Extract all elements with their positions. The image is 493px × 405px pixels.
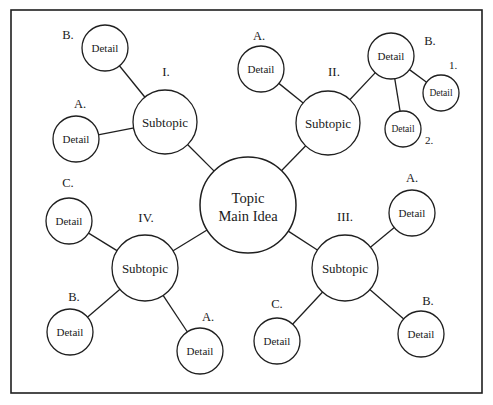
label-detail-3-c: Detail [264, 335, 291, 347]
marker-detail-2-b-1: 1. [449, 59, 458, 71]
node-subtopic-4[interactable]: Subtopic [112, 235, 178, 301]
marker-detail-2-a: A. [253, 29, 265, 43]
edge-detail-2-b-to-detail-2-b-2 [395, 78, 401, 112]
label-subtopic-4: Subtopic [122, 261, 168, 276]
edge-center-to-subtopic-3 [288, 231, 318, 250]
node-detail-3-a[interactable]: Detail [389, 190, 435, 236]
marker-subtopic-1: I. [162, 64, 170, 79]
marker-detail-3-a: A. [406, 171, 418, 185]
edge-detail-2-b-to-detail-2-b-1 [409, 69, 427, 82]
edge-subtopic-1-to-detail-1-a [98, 128, 134, 135]
marker-detail-1-b: B. [62, 28, 73, 42]
marker-detail-4-b: B. [68, 290, 79, 304]
label-detail-3-a: Detail [399, 207, 426, 219]
label-detail-2-b: Detail [378, 50, 405, 62]
center-label-line1: Topic [232, 190, 265, 206]
edge-center-to-subtopic-2 [281, 146, 306, 171]
marker-subtopic-3: III. [337, 209, 353, 224]
label-detail-3-b: Detail [408, 328, 435, 340]
label-detail-2-b-1: Detail [429, 88, 453, 98]
label-subtopic-2: Subtopic [305, 116, 351, 131]
node-detail-2-b[interactable]: Detail [368, 33, 414, 79]
node-detail-1-a[interactable]: Detail [53, 116, 99, 162]
label-detail-1-a: Detail [63, 133, 90, 145]
node-detail-2-b-2[interactable]: Detail [385, 111, 421, 147]
center-label-line2: Main Idea [218, 208, 278, 224]
node-detail-3-c[interactable]: Detail [254, 318, 300, 364]
node-layer: TopicMain IdeaSubtopicDetailDetailSubtop… [46, 25, 459, 374]
node-detail-4-c[interactable]: Detail [46, 198, 92, 244]
marker-detail-3-b: B. [422, 294, 433, 308]
node-detail-3-b[interactable]: Detail [398, 311, 444, 357]
node-subtopic-2[interactable]: Subtopic [296, 91, 360, 155]
marker-detail-4-c: C. [62, 176, 73, 190]
label-detail-2-b-2: Detail [391, 124, 415, 134]
node-detail-2-b-1[interactable]: Detail [423, 75, 459, 111]
label-detail-4-b: Detail [57, 326, 84, 338]
edge-subtopic-3-to-detail-3-b [370, 289, 404, 319]
edge-subtopic-4-to-detail-4-c [88, 233, 117, 251]
marker-detail-2-b: B. [424, 34, 435, 48]
node-subtopic-1[interactable]: Subtopic [133, 90, 197, 154]
concept-map-svg: TopicMain IdeaSubtopicDetailDetailSubtop… [0, 0, 493, 405]
label-subtopic-3: Subtopic [322, 261, 368, 276]
edge-subtopic-2-to-detail-2-a [279, 83, 304, 103]
edge-subtopic-4-to-detail-4-b [87, 289, 120, 317]
marker-detail-4-a: A. [202, 310, 214, 324]
node-subtopic-3[interactable]: Subtopic [312, 235, 378, 301]
node-detail-4-a[interactable]: Detail [177, 328, 223, 374]
label-detail-1-b: Detail [92, 42, 119, 54]
edge-center-to-subtopic-1 [187, 144, 214, 171]
diagram-canvas: TopicMain IdeaSubtopicDetailDetailSubtop… [0, 0, 493, 405]
edge-subtopic-3-to-detail-3-c [292, 292, 323, 325]
edge-center-to-subtopic-4 [173, 230, 208, 251]
label-detail-4-a: Detail [187, 345, 214, 357]
edge-subtopic-4-to-detail-4-a [163, 295, 188, 332]
edge-subtopic-2-to-detail-2-b [350, 72, 376, 100]
label-subtopic-1: Subtopic [142, 115, 188, 130]
marker-detail-2-b-2: 2. [425, 134, 434, 146]
edge-subtopic-3-to-detail-3-a [370, 227, 394, 247]
node-detail-4-b[interactable]: Detail [47, 309, 93, 355]
marker-subtopic-2: II. [328, 64, 340, 79]
marker-detail-3-c: C. [271, 297, 282, 311]
edge-subtopic-1-to-detail-1-b [119, 65, 145, 97]
marker-subtopic-4: IV. [138, 210, 153, 225]
label-detail-4-c: Detail [56, 215, 83, 227]
node-detail-1-b[interactable]: Detail [82, 25, 128, 71]
node-detail-2-a[interactable]: Detail [238, 46, 284, 92]
label-detail-2-a: Detail [248, 63, 275, 75]
marker-detail-1-a: A. [74, 97, 86, 111]
node-center[interactable]: TopicMain Idea [200, 157, 296, 253]
